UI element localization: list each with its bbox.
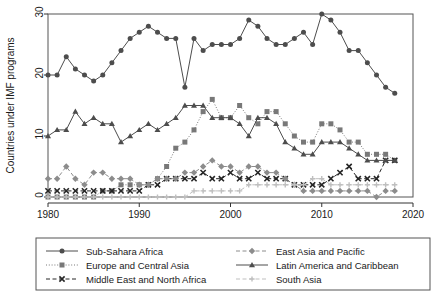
- data-point: [310, 176, 315, 181]
- data-point: [155, 194, 160, 199]
- data-point: [365, 152, 370, 157]
- data-point: [73, 66, 78, 71]
- series-line: [48, 14, 395, 93]
- data-point: [173, 36, 178, 41]
- chart-figure: 0102030Countries under IMF programs19801…: [0, 0, 435, 299]
- data-point: [146, 194, 151, 199]
- data-point: [164, 194, 169, 199]
- data-point: [347, 48, 352, 53]
- legend-label: East Asia and Pacific: [276, 246, 365, 257]
- data-point: [60, 263, 65, 268]
- data-point: [155, 182, 160, 187]
- data-point: [237, 103, 242, 108]
- data-point: [373, 194, 379, 200]
- data-point: [218, 163, 224, 169]
- data-point: [291, 145, 297, 150]
- data-point: [365, 60, 370, 65]
- data-point: [292, 134, 297, 139]
- data-point: [219, 188, 224, 193]
- y-axis: 0102030Countries under IMF programs: [5, 6, 48, 198]
- x-tick-label-1980: 1980: [37, 209, 60, 220]
- data-point: [283, 42, 288, 47]
- data-point: [119, 48, 124, 53]
- data-point: [274, 109, 279, 114]
- data-point: [128, 194, 133, 199]
- data-point: [346, 145, 352, 150]
- x-tick-label-2000: 2000: [219, 209, 242, 220]
- data-point: [155, 127, 161, 132]
- data-point: [392, 91, 397, 96]
- data-point: [255, 182, 260, 187]
- data-point: [228, 188, 233, 193]
- data-point: [264, 182, 269, 187]
- data-point: [219, 42, 224, 47]
- data-point: [283, 121, 288, 126]
- series-middle-east-and-north-africa: [45, 158, 397, 194]
- data-point: [60, 249, 65, 254]
- series-line: [48, 179, 395, 197]
- data-point: [374, 176, 379, 181]
- data-point: [164, 164, 169, 169]
- data-point: [246, 115, 251, 120]
- data-point: [201, 109, 206, 114]
- data-point: [55, 73, 60, 78]
- data-point: [365, 182, 370, 187]
- data-point: [264, 169, 270, 175]
- data-point: [383, 182, 388, 187]
- data-point: [119, 182, 124, 187]
- data-point: [356, 48, 361, 53]
- x-tick-label-1990: 1990: [128, 209, 151, 220]
- data-point: [310, 140, 315, 145]
- legend-label: Middle East and North Africa: [86, 274, 207, 285]
- data-point: [82, 73, 87, 78]
- data-point: [338, 127, 343, 132]
- data-point: [182, 169, 188, 175]
- data-point: [164, 36, 169, 41]
- legend: Sub-Sahara AfricaEast Asia and PacificEu…: [36, 238, 430, 290]
- data-point: [192, 36, 197, 41]
- data-point: [292, 36, 297, 41]
- x-axis: 19801990200020102020: [37, 203, 425, 220]
- data-point: [109, 194, 114, 199]
- series-layer: [45, 12, 398, 201]
- data-point: [201, 170, 206, 175]
- data-point: [383, 85, 388, 90]
- data-point: [364, 188, 370, 194]
- data-point: [319, 12, 324, 17]
- data-point: [200, 163, 206, 169]
- data-point: [182, 140, 187, 145]
- data-point: [128, 182, 133, 187]
- data-point: [355, 188, 361, 194]
- data-point: [192, 127, 197, 132]
- data-point: [173, 146, 178, 151]
- x-tick-label-2020: 2020: [402, 209, 425, 220]
- data-point: [383, 152, 388, 157]
- data-point: [118, 176, 124, 182]
- x-tick-label-2010: 2010: [311, 209, 334, 220]
- data-point: [100, 73, 105, 78]
- y-tick-label-10: 10: [34, 128, 45, 140]
- data-point: [274, 182, 279, 187]
- data-point: [191, 188, 196, 193]
- legend-label: South Asia: [276, 274, 322, 285]
- data-point: [246, 18, 251, 23]
- data-point: [109, 60, 114, 65]
- data-point: [72, 109, 78, 114]
- data-point: [273, 121, 279, 126]
- series-line: [48, 99, 395, 197]
- data-point: [246, 163, 252, 169]
- data-point: [109, 176, 115, 182]
- data-point: [137, 30, 142, 35]
- data-point: [309, 188, 315, 194]
- data-point: [338, 30, 343, 35]
- y-tick-label-30: 30: [34, 6, 45, 18]
- data-point: [227, 163, 233, 169]
- data-point: [210, 176, 215, 181]
- data-point: [328, 121, 333, 126]
- data-point: [137, 188, 142, 193]
- data-point: [90, 169, 96, 175]
- data-point: [328, 18, 333, 23]
- data-point: [300, 188, 306, 194]
- series-sub-sahara-africa: [46, 12, 398, 96]
- data-point: [128, 36, 133, 41]
